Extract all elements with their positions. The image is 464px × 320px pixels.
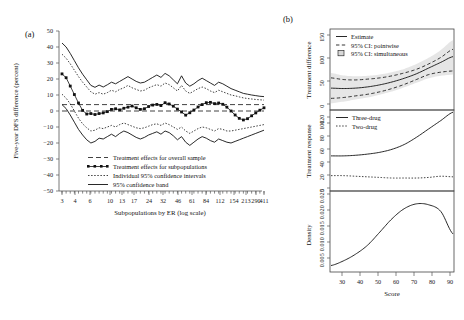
data-point-marker [184,114,187,117]
data-point-marker [155,103,158,106]
x-tick-label: 112 [215,197,224,204]
data-point-marker [114,107,117,110]
x-tick-label: 61 [189,197,195,204]
y-tick-label: 0.005 [318,253,325,267]
data-point-marker [225,106,228,109]
legend-label-estimate: Estimate [351,33,374,40]
data-point-marker [221,103,224,106]
panel-b: (b) 0 50 100 150 Treatment difference [283,14,454,297]
data-point-marker [213,102,216,105]
y-tick-label: 20 [318,174,325,180]
x-tick-label: 24 [146,197,152,204]
y-tick-label: 40 [318,161,325,167]
panel-a-plot [61,43,266,145]
y-tick-label: −30 [43,155,53,162]
series-two-drug [331,176,453,178]
x-tick-label: 84 [203,197,209,204]
x-tick-label: 70 [411,278,417,285]
figure-container: (a) 50 40 30 20 10 0 −10 [0,0,464,320]
data-point-marker [65,76,68,79]
legend-label-simultaneous: 95% CI: simultaneous [351,50,408,57]
panel-b-top-y-title: Treatment difference [305,42,312,99]
y-tick-label: 30 [47,59,53,66]
density-curve [331,204,453,266]
panel-b-bottom-y-ticks: 0.005 0.010 0.015 0.020 0.025 [318,189,330,267]
data-point-marker [131,105,134,108]
x-tick-label: 50 [375,278,381,285]
data-point-marker [176,108,179,111]
panel-b-middle: 0 20 40 60 80 100 120 Treatment response [305,110,454,192]
data-point-marker [151,104,154,107]
x-tick-label: 80 [429,278,435,285]
y-tick-label: −50 [43,187,53,194]
data-point-marker [230,110,233,113]
series-treatment-effects-for-subpopulations [62,74,264,120]
data-point-marker [246,117,249,120]
legend-label-overall: Treatment effects for overall sample [113,154,206,161]
data-point-marker [188,111,191,114]
legend-label-pointwise: 95% CI: pointwise [351,42,399,49]
y-tick-label: 0 [318,105,325,108]
y-tick-label: −10 [43,123,53,130]
data-point-marker [234,114,237,117]
panel-a-x-ticks: 3 4 6 10 13 17 24 32 46 61 84 [60,191,268,204]
data-point-marker [135,106,138,109]
panel-b-middle-y-title: Treatment response [305,124,312,177]
data-point-marker [209,101,212,104]
data-point-marker [85,113,88,116]
panel-b-bottom-y-title: Density [305,224,312,246]
data-point-marker [160,104,163,107]
panel-b-middle-plot [331,112,453,178]
data-point-marker [110,108,113,111]
series-upper-individual-95-confidence-interval [62,54,264,100]
y-tick-label: 0.010 [318,237,325,251]
y-tick-label: 50 [47,27,53,34]
legend-label-two-drug: Two-drug [352,123,378,130]
x-tick-label: 213 [241,197,250,204]
panel-b-top-legend: Estimate 95% CI: pointwise 95% CI: simul… [336,33,408,57]
y-tick-label: 100 [318,56,325,65]
x-tick-label: 4 [73,197,76,204]
data-point-marker [118,108,121,111]
x-tick-label: 40 [357,278,363,285]
legend-marker-square [87,165,90,168]
legend-label-individual-ci: Individual 95% confidence intervals [113,172,206,179]
data-point-marker [201,103,204,106]
panel-a-x-axis-title: Subpopulations by ER (log scale) [114,209,205,217]
panel-b-x-ticks: 30 40 50 60 70 80 90 [339,272,453,285]
legend-marker-square [100,165,103,168]
data-point-marker [143,107,146,110]
data-point-marker [127,106,130,109]
data-point-marker [205,101,208,104]
panel-b-middle-legend: Three-drug Two-drug [336,114,382,130]
panel-b-bottom-frame [330,191,454,272]
data-point-marker [139,108,142,111]
panel-b-top: 0 50 100 150 Treatment difference Estima… [305,29,454,110]
panel-b-bottom-plot [331,204,453,266]
data-point-marker [147,105,150,108]
x-tick-label: 30 [339,278,345,285]
panel-a-y-ticks: 50 40 30 20 10 0 −10 −20 −30 −40 [43,27,59,194]
data-point-marker [242,119,245,122]
y-tick-label: 20 [47,75,53,82]
data-point-marker [106,110,109,113]
y-tick-label: 0.020 [318,205,325,219]
data-point-marker [172,105,175,108]
data-point-marker [81,109,84,112]
panel-b-label: (b) [283,14,293,24]
data-point-marker [217,102,220,105]
y-tick-label: −40 [43,171,53,178]
legend-label-band: 95% confidence band [113,181,169,188]
data-point-marker [197,106,200,109]
data-point-marker [263,106,266,109]
panel-b-middle-y-ticks: 0 20 40 60 80 100 120 [318,115,330,192]
data-point-marker [77,102,80,105]
x-tick-label: 3 [60,197,63,204]
panel-b-bottom: 0.005 0.010 0.015 0.020 0.025 Density 30 [305,189,454,297]
x-tick-label: 32 [160,197,166,204]
data-point-marker [122,107,125,110]
data-point-marker [254,112,257,115]
y-tick-label: 120 [318,115,325,124]
data-point-marker [168,103,171,106]
data-point-marker [98,112,101,115]
